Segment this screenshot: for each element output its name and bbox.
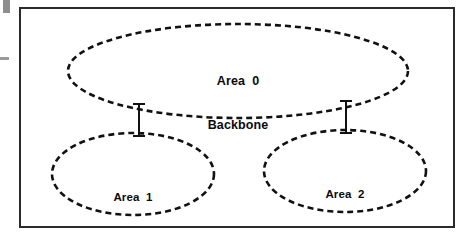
figure-root: Area 0 Backbone Area 1 Area 2 xyxy=(0,0,472,244)
area-1-label-line-1: Area 1 xyxy=(53,191,213,205)
area-0-label: Area 0 Backbone xyxy=(138,44,338,162)
area-0-label-line-2: Backbone xyxy=(138,118,338,133)
area-2-label-line-1: Area 2 xyxy=(265,188,425,202)
area-2-label: Area 2 xyxy=(265,161,425,229)
area-0-label-line-1: Area 0 xyxy=(138,74,338,89)
area-1-label: Area 1 xyxy=(53,164,213,232)
